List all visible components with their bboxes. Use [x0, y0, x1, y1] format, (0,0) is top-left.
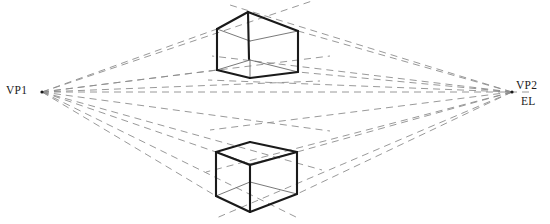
upper-cube-edge-interior-back-left: [217, 29, 250, 41]
perspective-drawing-canvas: [0, 0, 550, 224]
perspective-guide-lines: [42, 1, 512, 219]
guide-vp2-upper-topright: [298, 31, 512, 92]
upper-cube-edge-vertical-center: [248, 12, 249, 59]
lower-cube: [216, 142, 297, 212]
guide-vp2-lower-topright: [297, 92, 512, 152]
upper-cube-edge-top-left: [217, 12, 248, 29]
guide-vp2-lower-topfront: [206, 92, 512, 172]
vanishing-point-1-marker: [40, 90, 43, 93]
vanishing-point-2-label: VP2: [516, 79, 537, 91]
lower-cube-edge-top-back-left: [216, 142, 250, 152]
upper-cube-edge-interior-back-right: [250, 31, 298, 41]
guide-vp1-upper-topback: [42, 1, 312, 92]
vanishing-point-2-marker: [510, 90, 513, 93]
lower-cube-edge-bottom-right: [250, 194, 297, 212]
eye-level-label: EL: [521, 95, 536, 107]
upper-cube-edge-bottom-front-right: [250, 72, 298, 78]
upper-cube-edge-top-right: [248, 12, 298, 31]
vanishing-point-1-label: VP1: [6, 84, 27, 96]
lower-cube-edge-top-back-right: [250, 142, 297, 152]
guide-vp1-lower-topfront: [42, 92, 322, 170]
perspective-diagram: VP1 VP2 EL: [0, 0, 550, 224]
lower-cube-edge-top-front-left: [216, 152, 250, 165]
guide-vp1-lower-topleft: [42, 92, 216, 152]
guide-vp2-upper-topback: [230, 5, 512, 92]
lower-cube-edge-bottom-left: [216, 196, 250, 212]
guide-vp2-upper-botright: [298, 72, 512, 92]
guide-vp2-upper-botfront: [208, 80, 512, 92]
upper-cube: [217, 12, 298, 78]
guide-vp1-lower-botfront: [42, 92, 300, 219]
guide-vp2-lower-botright: [297, 92, 512, 194]
lower-cube-edge-interior-bottom-right: [250, 182, 297, 194]
upper-cube-edge-interior-base-right: [250, 60, 298, 72]
lower-cube-edge-interior-bottom-left: [216, 182, 250, 196]
guide-vp1-lower-topback: [42, 92, 330, 131]
upper-cube-edge-bottom-front-left: [217, 70, 250, 78]
guide-vp1-upper-topleft: [42, 29, 217, 92]
guide-vp1-lower-botleft: [42, 92, 216, 196]
